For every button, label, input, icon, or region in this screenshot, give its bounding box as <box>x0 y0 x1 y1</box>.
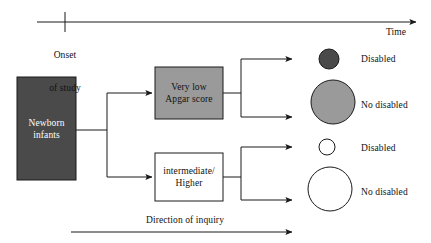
very-low-disabled-label: Disabled <box>361 54 396 65</box>
intermediate-disabled-label: Disabled <box>361 143 396 154</box>
intermediate-disabled-circle <box>319 139 335 155</box>
cohort-label-line-1: Newborn <box>28 117 64 129</box>
cohort-label-line-2: infants <box>33 129 60 141</box>
direction-of-inquiry-label: Direction of inquiry <box>105 215 265 226</box>
very-low-no-disabled-circle <box>311 80 355 124</box>
intermediate-higher-box-label: intermediate/ Higher <box>155 153 223 201</box>
very-low-apgar-line-2: Apgar score <box>165 93 212 105</box>
very-low-no-disabled-label: No disabled <box>361 100 408 111</box>
intermediate-higher-line-2: Higher <box>176 177 203 189</box>
very-low-disabled-circle <box>319 49 339 69</box>
very-low-apgar-outcome-connectors <box>223 59 292 117</box>
onset-label-line-1: Onset <box>41 50 89 61</box>
intermediate-no-disabled-circle <box>308 167 352 211</box>
time-axis-label: Time <box>386 27 406 38</box>
time-axis-group <box>37 12 416 32</box>
very-low-apgar-line-1: Very low <box>171 81 206 93</box>
intermediate-higher-line-1: intermediate/ <box>163 165 214 177</box>
very-low-apgar-box-label: Very low Apgar score <box>155 67 223 119</box>
cohort-box-label: Newborn infants <box>17 77 76 180</box>
study-design-diagram: Onset of study Time Newborn infants Very… <box>0 0 431 243</box>
intermediate-no-disabled-label: No disabled <box>361 187 408 198</box>
intermediate-higher-outcome-connectors <box>223 147 292 200</box>
